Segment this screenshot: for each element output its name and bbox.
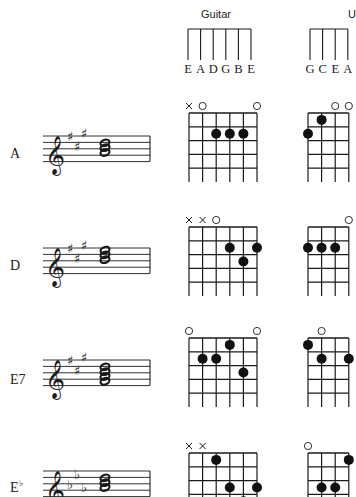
- tuning-string-label: E: [331, 62, 339, 76]
- tuning-string-label: G: [305, 62, 314, 76]
- ukulele-chord-diagram-e: [304, 442, 353, 497]
- guitar-chord-diagram-a: [186, 102, 261, 182]
- open-string-icon: [185, 327, 192, 334]
- tuning-string-label: G: [221, 62, 230, 76]
- chord-name-label: E♭: [10, 478, 23, 496]
- ukulele-tuning-diagram: GCEA: [305, 29, 352, 76]
- music-staff: 𝄞♯♯♯: [43, 350, 150, 400]
- finger-dot: [238, 257, 248, 267]
- finger-dot: [330, 483, 340, 493]
- open-string-icon: [253, 327, 260, 334]
- music-staff: 𝄞♯♯♯: [43, 238, 150, 288]
- sharp-icon: ♯: [81, 238, 87, 253]
- chord-name: E: [10, 480, 19, 495]
- sharp-icon: ♯: [67, 129, 73, 144]
- finger-dot: [303, 243, 313, 253]
- finger-dot: [317, 243, 327, 253]
- sharp-icon: ♯: [67, 353, 73, 368]
- ukulele-chord-diagram-d: [303, 216, 352, 296]
- finger-dot: [252, 243, 262, 253]
- muted-string-icon: [200, 443, 206, 449]
- ukulele-chord-diagram-e7: [303, 327, 354, 407]
- open-string-icon: [332, 102, 339, 109]
- muted-string-icon: [186, 103, 192, 109]
- chord-name-label: D: [10, 258, 20, 274]
- tuning-string-label: E: [184, 62, 192, 76]
- flat-icon: ♭: [74, 467, 80, 482]
- chord-name: A: [10, 146, 20, 161]
- open-string-icon: [199, 102, 206, 109]
- finger-dot: [198, 354, 208, 364]
- guitar-chord-diagram-e7: [185, 327, 260, 407]
- finger-dot: [225, 483, 235, 493]
- tuning-string-label: A: [343, 62, 352, 76]
- finger-dot: [211, 129, 221, 139]
- flat-icon: ♭: [67, 477, 73, 492]
- flat-accidental: ♭: [19, 478, 23, 488]
- finger-dot: [238, 129, 248, 139]
- tuning-string-label: C: [318, 62, 326, 76]
- finger-dot: [344, 455, 354, 465]
- flat-icon: ♭: [81, 480, 87, 495]
- guitar-chord-diagram-e: [186, 443, 262, 497]
- open-string-icon: [304, 442, 311, 449]
- sharp-icon: ♯: [81, 126, 87, 141]
- music-staff: 𝄞♯♯♯: [43, 126, 150, 176]
- sharp-icon: ♯: [74, 139, 80, 154]
- treble-clef-icon: 𝄞: [45, 246, 65, 288]
- tuning-string-label: A: [196, 62, 205, 76]
- treble-clef-icon: 𝄞: [45, 134, 65, 176]
- finger-dot: [330, 243, 340, 253]
- tuning-string-label: B: [234, 62, 242, 76]
- guitar-chord-diagram-d: [186, 216, 262, 296]
- muted-string-icon: [186, 443, 192, 449]
- chord-name-label: A: [10, 146, 20, 162]
- sharp-icon: ♯: [74, 363, 80, 378]
- treble-clef-icon: 𝄞: [45, 358, 65, 400]
- muted-string-icon: [186, 217, 192, 223]
- open-string-icon: [253, 102, 260, 109]
- finger-dot: [303, 340, 313, 350]
- finger-dot: [303, 129, 313, 139]
- finger-dot: [225, 340, 235, 350]
- finger-dot: [225, 243, 235, 253]
- finger-dot: [252, 483, 262, 493]
- open-string-icon: [318, 327, 325, 334]
- sharp-icon: ♯: [81, 350, 87, 365]
- music-staff: 𝄞♭♭♭: [43, 467, 150, 497]
- open-string-icon: [345, 216, 352, 223]
- finger-dot: [225, 129, 235, 139]
- sharp-icon: ♯: [67, 241, 73, 256]
- finger-dot: [238, 368, 248, 378]
- chord-name-label: E7: [10, 372, 26, 388]
- ukulele-chord-diagram-a: [303, 102, 352, 182]
- open-string-icon: [213, 216, 220, 223]
- finger-dot: [317, 483, 327, 493]
- treble-clef-icon: 𝄞: [45, 469, 65, 497]
- guitar-tuning-diagram: EADGBE: [184, 29, 255, 76]
- tuning-string-label: E: [247, 62, 255, 76]
- finger-dot: [317, 115, 327, 125]
- finger-dot: [211, 354, 221, 364]
- sharp-icon: ♯: [74, 251, 80, 266]
- muted-string-icon: [200, 217, 206, 223]
- finger-dot: [344, 354, 354, 364]
- open-string-icon: [345, 102, 352, 109]
- tuning-string-label: D: [209, 62, 218, 76]
- finger-dot: [211, 455, 221, 465]
- chord-name: D: [10, 258, 20, 273]
- finger-dot: [317, 354, 327, 364]
- chord-name: E7: [10, 372, 26, 387]
